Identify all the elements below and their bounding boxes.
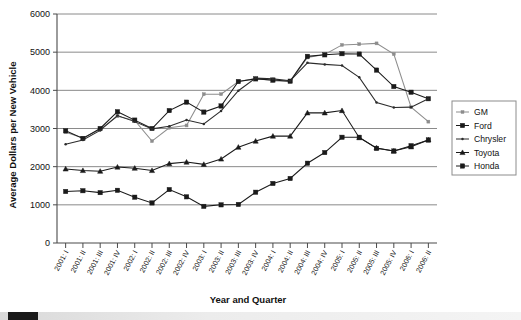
- data-point-square: [202, 110, 206, 114]
- data-point-square: [392, 149, 396, 153]
- data-point-square: [133, 195, 137, 199]
- chart-legend: GMFordChryslerToyotaHonda: [452, 101, 516, 175]
- x-tick-label: 2002: IV: [171, 249, 192, 277]
- data-point-square: [63, 189, 67, 193]
- x-tick-label: 2003: I: [190, 249, 208, 273]
- y-tick-label: 6000: [30, 9, 50, 19]
- data-point-square: [167, 108, 171, 112]
- x-tick-label: 2003: IV: [240, 249, 261, 277]
- data-point-square: [460, 123, 464, 127]
- series-line-ford: [66, 54, 429, 139]
- data-point-small-square: [202, 93, 205, 96]
- series-line-toyota: [66, 111, 429, 172]
- x-axis-title: Year and Quarter: [210, 294, 287, 305]
- y-tick-label: 4000: [30, 86, 50, 96]
- data-point-dot: [393, 106, 396, 109]
- data-point-dot: [151, 128, 154, 131]
- data-point-square: [150, 201, 154, 205]
- data-point-square: [374, 68, 378, 72]
- data-point-dot: [220, 110, 223, 113]
- series-layer: [63, 42, 431, 209]
- data-point-small-square: [185, 124, 188, 127]
- data-point-square: [219, 203, 223, 207]
- data-point-small-square: [151, 140, 154, 143]
- data-point-square: [115, 188, 119, 192]
- data-point-small-square: [220, 93, 223, 96]
- data-point-square: [63, 129, 67, 133]
- data-point-small-square: [461, 111, 464, 114]
- x-tick-label: 2002: I: [121, 249, 139, 273]
- data-point-square: [426, 138, 430, 142]
- legend-label: GM: [474, 107, 488, 117]
- data-point-small-square: [341, 43, 344, 46]
- data-point-small-square: [375, 42, 378, 45]
- data-point-dot: [306, 62, 309, 65]
- data-point-dot: [375, 101, 378, 104]
- data-point-triangle: [218, 156, 223, 161]
- x-tick-label: 2004: IV: [309, 249, 330, 277]
- y-tick-label: 1000: [30, 200, 50, 210]
- data-point-dot: [133, 120, 136, 123]
- data-point-square: [340, 135, 344, 139]
- data-point-dot: [461, 138, 464, 141]
- horizontal-scrollbar-thumb[interactable]: [8, 312, 38, 320]
- data-point-square: [323, 150, 327, 154]
- data-point-square: [340, 51, 344, 55]
- data-point-dot: [254, 77, 256, 80]
- data-point-dot: [116, 114, 119, 117]
- data-point-small-square: [427, 120, 430, 123]
- data-point-square: [184, 195, 188, 199]
- data-point-small-square: [392, 53, 395, 56]
- data-point-dot: [410, 106, 413, 109]
- data-point-square: [236, 202, 240, 206]
- data-point-square: [81, 189, 85, 193]
- y-axis: 0100020003000400050006000: [30, 9, 57, 248]
- data-point-dot: [203, 123, 206, 126]
- data-point-square: [288, 176, 292, 180]
- line-chart: 0100020003000400050006000 2001: I2001: I…: [0, 0, 521, 312]
- y-tick-label: 5000: [30, 47, 50, 57]
- data-point-square: [167, 187, 171, 191]
- data-point-square: [305, 54, 309, 58]
- data-point-dot: [82, 139, 85, 142]
- x-tick-label: 2001: IV: [102, 249, 123, 277]
- data-point-dot: [272, 78, 275, 81]
- data-point-square: [357, 135, 361, 139]
- x-tick-label: 2001: I: [52, 249, 70, 273]
- data-point-dot: [185, 119, 188, 122]
- y-tick-label: 2000: [30, 162, 50, 172]
- y-tick-label: 3000: [30, 124, 50, 134]
- data-point-dot: [341, 64, 344, 67]
- data-point-square: [202, 204, 206, 208]
- x-tick-label: 2006: I: [398, 249, 416, 273]
- data-point-square: [98, 190, 102, 194]
- legend-label: Toyota: [474, 148, 500, 158]
- data-point-dot: [99, 129, 102, 132]
- horizontal-scrollbar-track[interactable]: [0, 312, 521, 320]
- data-point-square: [219, 104, 223, 108]
- x-tick-label: 2005: IV: [378, 249, 399, 277]
- data-point-square: [409, 143, 413, 147]
- data-point-square: [236, 79, 240, 83]
- data-point-square: [409, 90, 413, 94]
- data-point-square: [184, 100, 188, 104]
- data-point-square: [115, 110, 119, 114]
- data-point-square: [305, 161, 309, 165]
- series-line-chrysler: [66, 63, 429, 144]
- data-point-square: [392, 84, 396, 88]
- data-point-dot: [64, 143, 67, 146]
- series-ford: [63, 51, 430, 140]
- y-axis-title: Average Dollars per New Vehicle: [7, 62, 18, 209]
- data-point-dot: [323, 63, 326, 66]
- legend-label: Chrysler: [474, 134, 506, 144]
- data-point-square: [271, 181, 275, 185]
- data-point-square: [374, 146, 378, 150]
- series-chrysler: [64, 62, 429, 146]
- data-point-dot: [168, 125, 171, 128]
- data-point-square: [357, 52, 361, 56]
- series-line-gm: [66, 43, 429, 141]
- series-honda: [63, 135, 430, 208]
- x-tick-label: 2006: II: [414, 249, 433, 274]
- data-point-square: [253, 190, 257, 194]
- y-tick-label: 0: [45, 238, 50, 248]
